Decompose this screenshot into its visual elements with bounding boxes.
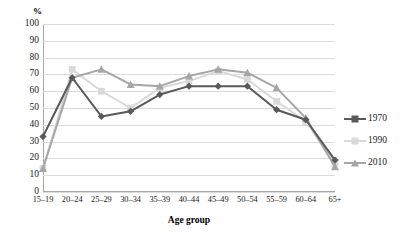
y-axis-tick-label: 20 — [1, 154, 39, 164]
x-axis-title: Age group — [43, 216, 335, 226]
legend-label: 1970 — [366, 114, 387, 124]
x-axis-tick-label: 50–54 — [237, 196, 258, 204]
gridline — [43, 192, 335, 193]
legend-label: 1990 — [366, 136, 387, 146]
y-axis-tick-label: 40 — [1, 120, 39, 130]
legend-swatch-diamond-icon — [344, 113, 366, 125]
series-line-1970 — [43, 78, 335, 160]
y-axis-tick-label: 70 — [1, 70, 39, 80]
legend-item-1970[interactable]: 1970 — [344, 108, 410, 130]
y-axis-tick-label: 80 — [1, 53, 39, 63]
x-axis-tick-label: 20–24 — [62, 196, 83, 204]
data-point-marker — [69, 66, 76, 73]
data-point-marker — [39, 133, 46, 140]
y-axis-tick-labels: 1009080706050403020100 — [0, 24, 39, 192]
x-axis-tick-label: 30–34 — [120, 196, 141, 204]
data-point-marker — [97, 65, 105, 72]
x-axis-tick-label: 45–49 — [208, 196, 229, 204]
y-axis-tick-label: 10 — [1, 170, 39, 180]
legend-marker-triangle-icon — [351, 160, 359, 167]
legend-marker-square-icon — [352, 138, 359, 145]
legend-swatch-square-icon — [344, 135, 366, 147]
y-axis-tick-label: 100 — [1, 19, 39, 29]
y-axis-tick-label: 60 — [1, 86, 39, 96]
plot-area — [43, 24, 335, 192]
legend-item-2010[interactable]: 2010 — [344, 152, 410, 174]
y-axis-tick-label: 30 — [1, 137, 39, 147]
x-axis-tick-label: 15–19 — [33, 196, 54, 204]
series-1990 — [40, 66, 339, 172]
x-axis-tick-label: 60–64 — [295, 196, 316, 204]
data-point-marker — [273, 84, 281, 91]
chart-container: % 1009080706050403020100 15–1920–2425–29… — [0, 0, 412, 240]
legend-label: 2010 — [366, 158, 387, 168]
data-point-marker — [98, 88, 105, 95]
x-axis-tick-label: 65+ — [329, 196, 342, 204]
x-axis-tick-label: 35–39 — [149, 196, 170, 204]
chart-legend: 197019902010 — [344, 108, 410, 174]
x-axis-tick-labels: 15–1920–2425–2930–3435–3940–4445–4950–54… — [43, 196, 335, 210]
x-axis-tick-label: 55–59 — [266, 196, 287, 204]
series-1970 — [39, 74, 338, 164]
legend-swatch-triangle-icon — [344, 157, 366, 169]
y-axis-tick-label: 90 — [1, 36, 39, 46]
y-axis-tick-label: 50 — [1, 103, 39, 113]
data-point-marker — [244, 76, 251, 83]
x-axis-tick-label: 25–29 — [91, 196, 112, 204]
y-axis-title: % — [33, 7, 42, 16]
legend-item-1990[interactable]: 1990 — [344, 130, 410, 152]
series-layer — [43, 24, 335, 192]
legend-marker-diamond-icon — [352, 116, 359, 123]
data-point-marker — [273, 98, 280, 105]
x-axis-tick-label: 40–44 — [179, 196, 200, 204]
data-point-marker — [215, 83, 222, 90]
